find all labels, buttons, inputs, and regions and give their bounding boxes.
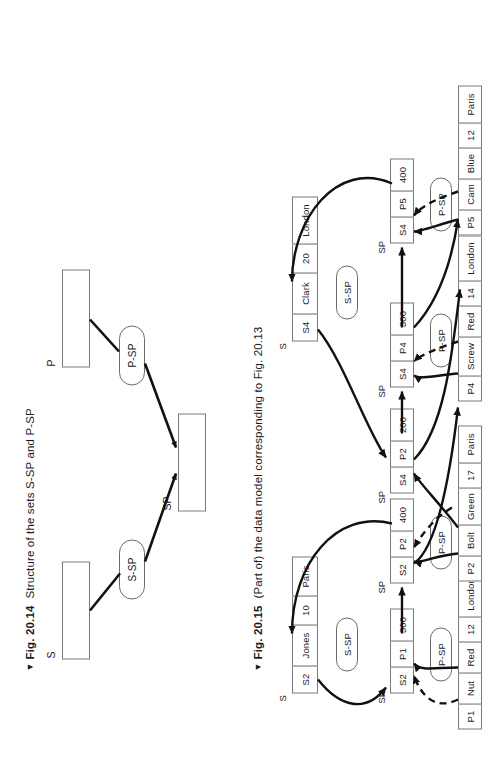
figure-page: ▼Fig. 20.14Structure of the sets S-SP an… xyxy=(0,0,488,759)
figure-2015-connectors xyxy=(0,0,488,759)
